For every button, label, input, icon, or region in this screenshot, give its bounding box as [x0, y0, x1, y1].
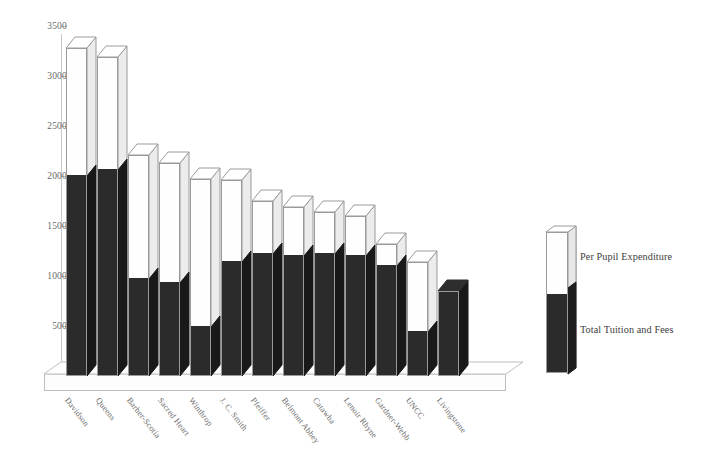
bar-front-face [283, 207, 304, 376]
bar-segment-expenditure [408, 263, 427, 333]
bar-segment-tuition [346, 255, 365, 375]
legend-swatch-tuition [547, 294, 567, 372]
bar-column [221, 180, 242, 376]
bar-segment-expenditure [67, 49, 86, 177]
y-axis-tick-label-text: 1500 [33, 221, 67, 231]
bar-column [128, 155, 149, 376]
bar-column [97, 57, 118, 376]
y-axis-tick-label-text: 3500 [33, 21, 67, 31]
bar-column [159, 163, 180, 376]
bar-segment-tuition [408, 331, 427, 375]
y-axis-tick-label: 500 [20, 321, 67, 331]
y-axis-tick-label: 2000 [20, 171, 67, 181]
y-axis-tick-label: 3500 [20, 21, 67, 31]
bar-column [438, 291, 459, 376]
bar-segment-tuition [129, 278, 148, 375]
y-axis-tick-label: 2500 [20, 121, 67, 131]
y-axis-tick-label: 3000 [20, 71, 67, 81]
bar-segment-expenditure [160, 164, 179, 284]
bar-front-face [221, 180, 242, 376]
y-axis-tick-label-text: 2500 [33, 121, 67, 131]
bar-segment-tuition [284, 255, 303, 375]
x-axis-label: Catawba [311, 396, 337, 426]
bar-segment-tuition [377, 265, 396, 375]
x-axis-label: J. C. Smith [218, 396, 249, 433]
y-axis-tick-label-text: 3000 [33, 71, 67, 81]
bar-column [345, 216, 366, 376]
bar-column [283, 207, 304, 376]
y-axis-tick-label-text: 500 [33, 321, 67, 331]
bar-column [252, 201, 273, 376]
x-axis-label: Pfeiffer [249, 396, 273, 423]
legend-label-tuition: Total Tuition and Fees [580, 324, 673, 335]
bar-segment-tuition [67, 175, 86, 375]
bar-segment-expenditure [222, 181, 241, 263]
bar-column [376, 244, 397, 376]
bar-front-face [128, 155, 149, 376]
bar-segment-tuition [160, 282, 179, 375]
bar-column [314, 212, 335, 376]
x-axis-label: Winthrop [187, 396, 215, 428]
stacked-column-chart: 500100015002000250030003500 DavidsonQuee… [0, 0, 712, 467]
bar-segment-tuition [439, 291, 458, 375]
bar-segment-expenditure [315, 213, 334, 255]
bar-segment-expenditure [284, 208, 303, 257]
bar-segment-expenditure [191, 180, 210, 328]
bar-front-face [438, 291, 459, 376]
bar-front-face [190, 179, 211, 376]
bar-front-face [66, 48, 87, 376]
x-axis-label: Queens [94, 396, 117, 422]
bar-segment-tuition [315, 253, 334, 375]
bar-column [190, 179, 211, 376]
bar-column [407, 262, 428, 376]
x-axis-label: Sacred Heart [156, 396, 191, 438]
legend-bar [546, 232, 568, 373]
bar-front-face [252, 201, 273, 376]
bar-front-face [314, 212, 335, 376]
x-axis-label: Livingstone [435, 396, 468, 435]
y-axis-tick-label: 1500 [20, 221, 67, 231]
bar-front-face [407, 262, 428, 376]
bar-front-face [159, 163, 180, 376]
bar-front-face [376, 244, 397, 376]
bar-segment-tuition [222, 261, 241, 375]
bar-segment-tuition [98, 169, 117, 375]
bar-segment-expenditure [377, 245, 396, 267]
bar-segment-tuition [253, 253, 272, 375]
bar-front-face [97, 57, 118, 376]
bar-front-face [345, 216, 366, 376]
y-axis-tick-label-text: 2000 [33, 171, 67, 181]
legend-swatch-expenditure [547, 233, 567, 295]
bar-segment-expenditure [98, 58, 117, 171]
legend-label-expenditure: Per Pupil Expenditure [580, 251, 672, 262]
y-axis-tick-label: 1000 [20, 271, 67, 281]
x-axis-label: Davidson [63, 396, 91, 428]
bar-segment-expenditure [129, 156, 148, 280]
x-axis-label: UNCC [404, 396, 426, 421]
bar-column [66, 48, 87, 376]
bar-segment-expenditure [253, 202, 272, 255]
y-axis-tick-label-text: 1000 [33, 271, 67, 281]
bar-segment-expenditure [346, 217, 365, 257]
bar-segment-tuition [191, 326, 210, 375]
